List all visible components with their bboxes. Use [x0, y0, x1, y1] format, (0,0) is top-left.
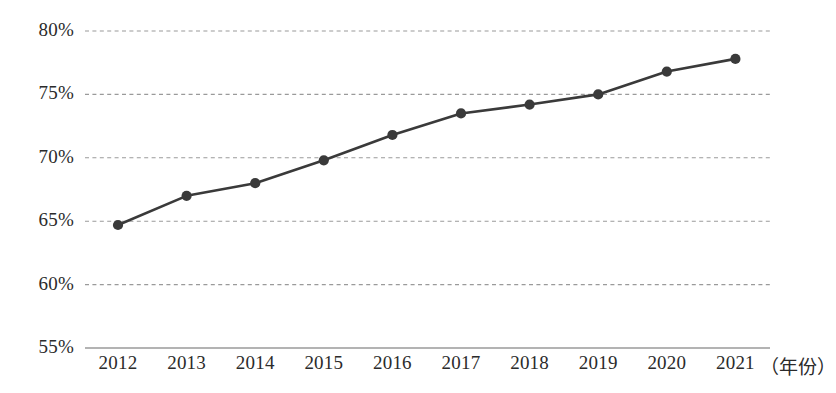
x-axis-tick-label: 2018	[510, 352, 549, 374]
y-axis-tick-label: 80%	[14, 19, 74, 41]
y-axis-tick-label: 65%	[14, 209, 74, 231]
plot-area	[0, 0, 836, 393]
x-axis-tick-label: 2014	[236, 352, 275, 374]
y-axis-tick-label: 75%	[14, 82, 74, 104]
line-chart: 80%75%70%65%60%55% 201220132014201520162…	[0, 0, 836, 393]
x-axis-tick-label: 2019	[579, 352, 618, 374]
x-axis-tick-label: 2015	[304, 352, 343, 374]
data-point-marker	[730, 54, 740, 64]
data-point-marker	[250, 178, 260, 188]
data-point-marker	[387, 130, 397, 140]
x-axis-tick-label: 2020	[647, 352, 686, 374]
data-point-marker	[662, 66, 672, 76]
x-axis-title: （年份）	[760, 352, 836, 379]
x-axis-tick-label: 2012	[99, 352, 138, 374]
data-point-marker	[182, 191, 192, 201]
data-point-group	[113, 54, 741, 230]
data-point-marker	[113, 220, 123, 230]
data-line	[118, 59, 735, 225]
x-axis-tick-label: 2021	[716, 352, 755, 374]
x-axis-tick-label: 2013	[167, 352, 206, 374]
x-axis-tick-label: 2016	[373, 352, 412, 374]
data-point-marker	[525, 99, 535, 109]
y-axis-tick-label: 70%	[14, 146, 74, 168]
x-axis-tick-label: 2017	[442, 352, 481, 374]
y-axis-tick-label: 55%	[14, 336, 74, 358]
y-axis-tick-label: 60%	[14, 273, 74, 295]
data-point-marker	[456, 108, 466, 118]
data-point-marker	[593, 89, 603, 99]
data-point-marker	[319, 155, 329, 165]
